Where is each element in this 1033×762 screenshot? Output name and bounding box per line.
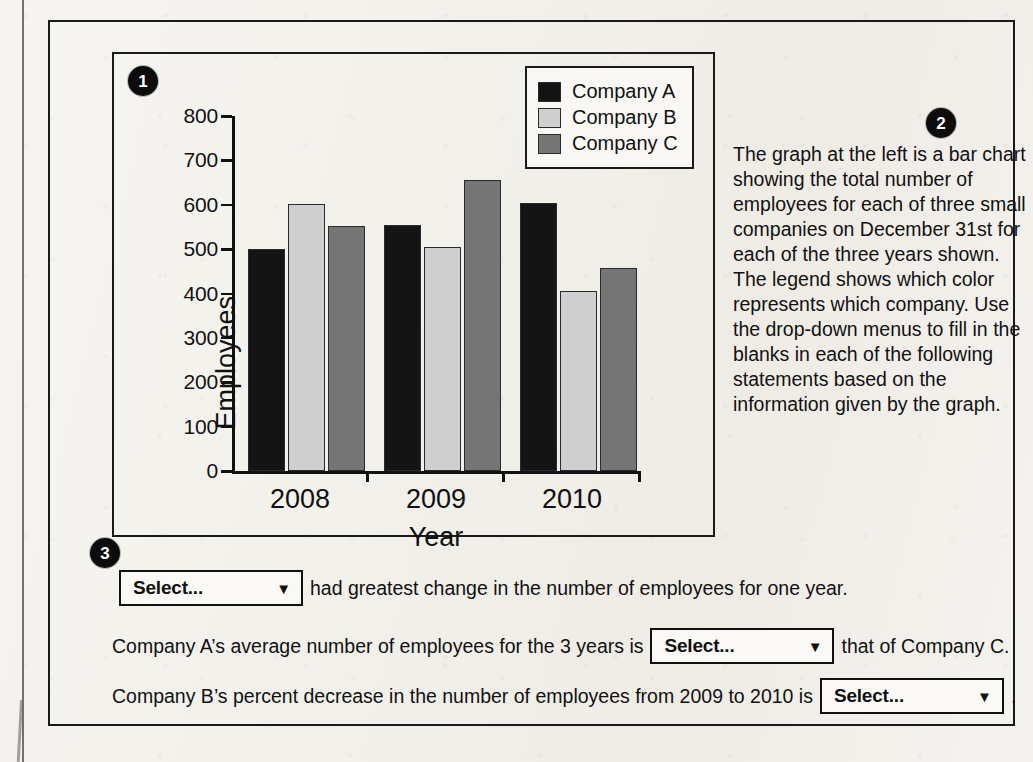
badge-two: 2 [926, 108, 956, 138]
y-tick-label: 200 [184, 370, 218, 394]
dropdown-1-label: Select... [133, 577, 203, 599]
bar-company-c-2010 [600, 268, 637, 471]
y-tick-label: 300 [184, 325, 218, 349]
legend-row: Company B [538, 106, 678, 129]
dropdown-2-label: Select... [664, 635, 734, 657]
x-label-2009: 2009 [406, 484, 466, 515]
statement-row-3: Company B’s percent decrease in the numb… [112, 678, 1017, 714]
x-tick [502, 471, 505, 482]
legend-swatch-icon [538, 108, 561, 128]
statements-section: Select... ▼ had greatest change in the n… [112, 570, 1017, 728]
y-tick-label: 800 [184, 104, 218, 128]
y-tick [221, 248, 232, 251]
bar-company-a-2010 [520, 203, 557, 471]
bar-chart: Employees Year 0100200300400500600700800… [232, 116, 640, 474]
legend-swatch-icon [538, 82, 561, 102]
y-tick-label: 700 [184, 148, 218, 172]
x-label-2010: 2010 [542, 484, 602, 515]
statement-row-2: Company A’s average number of employees … [112, 628, 1017, 664]
y-axis-title: Employees [211, 296, 242, 430]
chart-legend: Company ACompany BCompany C [525, 66, 694, 169]
x-label-2008: 2008 [270, 484, 330, 515]
bar-company-c-2008 [328, 226, 365, 471]
y-tick [221, 115, 232, 118]
statement-3-before: Company B’s percent decrease in the numb… [112, 685, 813, 708]
y-tick [221, 426, 232, 429]
content-frame: 1 Employees Year 01002003004005006007008… [48, 20, 1015, 726]
x-axis [232, 471, 640, 474]
badge-one: 1 [128, 66, 158, 96]
select-dropdown-2[interactable]: Select... ▼ [650, 628, 834, 664]
y-tick-label: 500 [184, 237, 218, 261]
y-tick [221, 204, 232, 207]
legend-label: Company C [572, 132, 678, 155]
select-dropdown-1[interactable]: Select... ▼ [119, 570, 303, 606]
bar-company-b-2008 [288, 204, 325, 471]
y-tick-label: 600 [184, 192, 218, 216]
x-axis-title: Year [409, 522, 464, 553]
bar-company-a-2008 [248, 249, 285, 471]
statement-2-after: that of Company C. [841, 635, 1009, 658]
statement-2-before: Company A’s average number of employees … [112, 635, 643, 658]
dropdown-3-label: Select... [834, 685, 904, 707]
legend-swatch-icon [538, 134, 561, 154]
statement-1-after: had greatest change in the number of emp… [310, 577, 848, 600]
y-tick [221, 337, 232, 340]
statement-row-1: Select... ▼ had greatest change in the n… [112, 570, 1017, 606]
legend-row: Company C [538, 132, 678, 155]
y-tick-label: 400 [184, 281, 218, 305]
y-tick-label: 0 [207, 459, 218, 483]
select-dropdown-3[interactable]: Select... ▼ [820, 678, 1004, 714]
x-tick [366, 471, 369, 482]
chevron-down-icon: ▼ [808, 639, 823, 654]
bar-company-a-2009 [384, 225, 421, 471]
legend-row: Company A [538, 80, 678, 103]
y-tick [221, 470, 232, 473]
legend-label: Company B [572, 106, 677, 129]
page-gutter-line [22, 0, 24, 762]
chart-panel: 1 Employees Year 01002003004005006007008… [112, 52, 715, 537]
y-tick [221, 381, 232, 384]
x-tick [638, 471, 641, 482]
y-tick [221, 159, 232, 162]
chevron-down-icon: ▼ [977, 689, 992, 704]
bar-company-b-2009 [424, 247, 461, 471]
badge-three: 3 [90, 538, 120, 568]
bar-company-b-2010 [560, 291, 597, 471]
bar-company-c-2009 [464, 180, 501, 471]
y-tick-label: 100 [184, 414, 218, 438]
y-tick [221, 293, 232, 296]
description-text: The graph at the left is a bar chart sho… [733, 142, 1033, 418]
legend-label: Company A [572, 80, 675, 103]
chevron-down-icon: ▼ [276, 581, 291, 596]
statement-3-after: . [1011, 685, 1016, 708]
